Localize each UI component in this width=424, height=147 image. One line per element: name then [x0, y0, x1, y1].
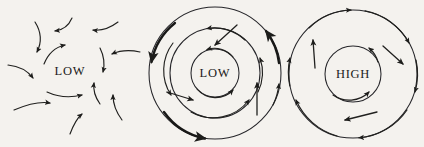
panel-1-center-label: LOW — [54, 64, 85, 78]
flow-arrow — [100, 48, 104, 72]
flow-arrow — [55, 18, 72, 31]
flow-arc — [152, 23, 176, 62]
flow-arc — [365, 11, 409, 43]
flow-arc — [273, 84, 279, 105]
radial-outflow-arrow — [313, 40, 315, 68]
flow-arc — [164, 43, 173, 95]
flow-arrow — [47, 92, 82, 97]
panel-2-center-label: LOW — [199, 66, 230, 80]
flow-arc — [207, 28, 245, 40]
flow-arrow — [93, 22, 118, 30]
flow-arc — [333, 92, 369, 100]
flow-arc — [266, 31, 279, 63]
flow-arrow — [44, 45, 65, 64]
figure-root: LOW — [0, 0, 424, 147]
flow-arrow — [113, 95, 122, 120]
panel-convergent-spiral-low: LOW — [0, 0, 145, 147]
flow-arc — [296, 100, 337, 136]
flow-arrow — [35, 22, 41, 52]
panel-cyclonic-low: LOW — [145, 0, 285, 147]
radial-outflow-arrow — [383, 46, 403, 64]
panel-anticyclonic-high: HIGH — [285, 0, 424, 147]
flow-arrow — [112, 51, 140, 54]
flow-arrow — [8, 65, 33, 78]
flow-arrow — [70, 114, 82, 134]
radial-inflow-arrow — [167, 92, 193, 100]
flow-arrow — [94, 83, 100, 104]
flow-arrow — [14, 102, 50, 110]
flow-arc — [309, 10, 351, 28]
radial-outflow-arrow — [345, 112, 377, 120]
panel-3-center-label: HIGH — [336, 67, 370, 81]
